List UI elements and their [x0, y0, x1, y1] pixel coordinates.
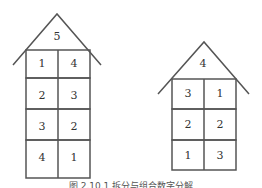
svg-text:2: 2 [217, 118, 224, 131]
cell: 2 [71, 120, 78, 133]
svg-text:4: 4 [71, 57, 78, 70]
cell: 2 [185, 118, 192, 131]
svg-text:2: 2 [185, 118, 192, 131]
svg-text:3: 3 [39, 120, 46, 133]
cell: 1 [71, 151, 78, 164]
cell: 3 [185, 87, 192, 100]
cell: 2 [217, 118, 224, 131]
cell: 3 [71, 89, 78, 102]
cell: 1 [217, 87, 224, 100]
svg-text:2: 2 [39, 89, 46, 102]
number-houses-diagram: 5 1 4 2 3 3 2 4 1 4 3 1 2 2 1 3 [0, 0, 262, 188]
cell: 4 [39, 151, 46, 164]
left-roof-number: 5 [54, 30, 61, 43]
cell: 3 [217, 149, 224, 162]
svg-text:1: 1 [39, 57, 46, 70]
svg-text:4: 4 [39, 151, 46, 164]
cell: 1 [185, 149, 192, 162]
svg-text:3: 3 [71, 89, 78, 102]
cell: 3 [39, 120, 46, 133]
cell: 1 [39, 57, 46, 70]
svg-text:3: 3 [185, 87, 192, 100]
svg-text:1: 1 [71, 151, 78, 164]
svg-text:2: 2 [71, 120, 78, 133]
cell: 2 [39, 89, 46, 102]
figure-caption: 图 2.10.1 拆分与组合数字分解 [0, 179, 262, 188]
svg-text:3: 3 [217, 149, 224, 162]
cell: 4 [71, 57, 78, 70]
svg-text:1: 1 [185, 149, 192, 162]
svg-text:1: 1 [217, 87, 224, 100]
right-roof-number: 4 [200, 57, 207, 70]
